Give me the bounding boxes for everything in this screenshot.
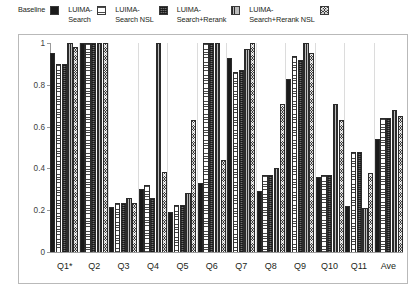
bar — [109, 207, 114, 252]
bar — [250, 43, 255, 252]
bar — [73, 47, 78, 252]
bar — [345, 206, 350, 252]
bar — [132, 203, 137, 252]
bar — [262, 175, 267, 252]
bar — [398, 116, 403, 252]
bar — [327, 175, 332, 252]
solid-square-icon — [50, 6, 59, 15]
x-axis-line — [50, 252, 403, 253]
bar — [268, 175, 273, 252]
bar — [115, 203, 120, 252]
bar — [392, 110, 397, 252]
bar — [191, 120, 196, 252]
bar — [286, 79, 291, 252]
y-axis-tick-mark — [47, 168, 50, 169]
bar-group — [168, 43, 198, 252]
bar — [221, 160, 226, 252]
bar — [215, 43, 220, 252]
bar — [144, 185, 149, 252]
bar — [298, 60, 303, 252]
legend-entry: LUIMA- Search — [68, 4, 106, 24]
x-axis-tick-label: Q1* — [50, 255, 79, 277]
bar — [168, 212, 173, 252]
bar — [174, 205, 179, 252]
bar-group — [345, 43, 375, 252]
bar — [80, 43, 85, 252]
y-axis-tick-label: 0.8 — [19, 80, 45, 89]
bar — [316, 177, 321, 252]
bar — [198, 183, 203, 252]
bars-plot-area — [50, 43, 403, 252]
bar — [85, 43, 90, 252]
legend-entry: LUIMA- Search NSL — [115, 4, 167, 24]
bar — [139, 189, 144, 252]
bar-group — [227, 43, 257, 252]
bar — [239, 70, 244, 252]
bar — [180, 205, 185, 252]
x-axis-tick-label: Ave — [374, 255, 403, 277]
bar-group — [198, 43, 228, 252]
bar — [292, 56, 297, 252]
bar-group — [80, 43, 110, 252]
bar — [380, 118, 385, 252]
x-axis-tick-label: Q9 — [285, 255, 314, 277]
y-axis-tick-label: 0.2 — [19, 206, 45, 215]
vertical-lines-square-icon — [231, 6, 240, 15]
bar — [227, 58, 232, 252]
checker-square-icon — [320, 6, 329, 15]
bar — [209, 43, 214, 252]
bar — [362, 208, 367, 252]
bar — [50, 53, 55, 252]
bar — [274, 168, 279, 252]
x-axis-tick-label: Q3 — [109, 255, 138, 277]
chart-legend: BaselineLUIMA- SearchLUIMA- Search NSLLU… — [18, 4, 408, 34]
bar — [233, 72, 238, 252]
y-axis-tick-label: 0.6 — [19, 122, 45, 131]
bar — [162, 172, 167, 252]
bar — [62, 64, 67, 252]
x-axis-tick-label: Q5 — [168, 255, 197, 277]
bar — [375, 139, 380, 252]
x-axis-tick-label: Q10 — [315, 255, 344, 277]
bar — [280, 104, 285, 252]
grid-square-icon — [159, 6, 168, 15]
bar — [121, 203, 126, 252]
y-axis-tick-label: 1 — [19, 39, 45, 48]
bar-group — [50, 43, 80, 252]
bar — [91, 43, 96, 252]
y-axis-tick-mark — [47, 127, 50, 128]
legend-entry: LUIMA- Search+Rerank NSL — [249, 4, 328, 24]
x-axis-tick-label: Q6 — [197, 255, 226, 277]
legend-entry-label: Baseline — [18, 4, 45, 15]
bar — [257, 191, 262, 252]
chart-frame: Q1*Q2Q3Q4Q5Q6Q7Q8Q9Q10Q11Ave 00.20.40.60… — [18, 34, 408, 284]
bar — [156, 43, 161, 252]
bar — [185, 193, 190, 252]
y-axis-tick-mark — [47, 252, 50, 253]
bar-group — [109, 43, 139, 252]
plot-area-wrapper: Q1*Q2Q3Q4Q5Q6Q7Q8Q9Q10Q11Ave 00.20.40.60… — [19, 35, 407, 283]
legend-entry-label: LUIMA- Search — [68, 4, 92, 24]
bar — [56, 64, 61, 252]
bar — [150, 198, 155, 252]
y-axis-tick-label: 0 — [19, 248, 45, 257]
x-axis-tick-label: Q8 — [256, 255, 285, 277]
y-axis-tick-mark — [47, 210, 50, 211]
bar — [351, 152, 356, 252]
bar — [203, 43, 208, 252]
bar — [368, 173, 373, 252]
bar-group — [375, 43, 404, 252]
legend-entry-label: LUIMA- Search NSL — [115, 4, 153, 24]
bar — [386, 118, 391, 252]
bar — [244, 49, 249, 252]
x-axis-tick-labels: Q1*Q2Q3Q4Q5Q6Q7Q8Q9Q10Q11Ave — [50, 255, 403, 277]
bar — [357, 152, 362, 252]
x-axis-tick-label: Q7 — [227, 255, 256, 277]
bar-group — [316, 43, 346, 252]
chart-screenshot: BaselineLUIMA- SearchLUIMA- Search NSLLU… — [0, 0, 415, 291]
bar — [103, 43, 108, 252]
legend-entry: Baseline — [18, 4, 59, 15]
bar — [126, 198, 131, 252]
horizontal-lines-square-icon — [97, 6, 106, 15]
legend-entry-label: LUIMA- Search+Rerank NSL — [249, 4, 314, 24]
